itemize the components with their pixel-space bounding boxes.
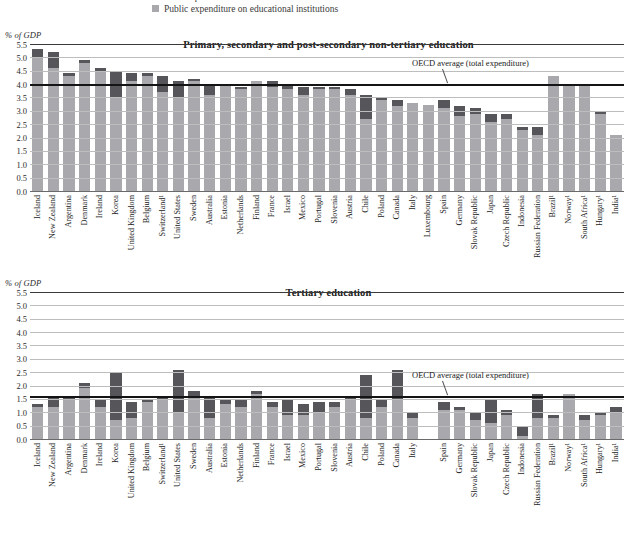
stacked-bar[interactable]	[110, 372, 121, 439]
stacked-bar[interactable]	[282, 399, 293, 439]
bar-segment-public	[282, 89, 293, 191]
bar-segment-public	[345, 95, 356, 191]
stacked-bar[interactable]	[438, 402, 449, 439]
x-axis-tick-label: Japan	[487, 195, 495, 214]
bar-slot	[249, 292, 265, 439]
y-tick-label: 5.5	[16, 40, 27, 50]
bar-segment-public	[485, 122, 496, 191]
stacked-bar[interactable]	[204, 396, 215, 439]
stacked-bar[interactable]	[95, 399, 106, 439]
stacked-bar[interactable]	[142, 399, 153, 439]
stacked-bar[interactable]	[110, 71, 121, 191]
stacked-bar[interactable]	[95, 68, 106, 191]
stacked-bar[interactable]	[298, 87, 309, 191]
bar-slot	[343, 44, 359, 191]
x-axis-tick-label: Sweden	[190, 195, 198, 221]
stacked-bar[interactable]	[501, 410, 512, 439]
bar-segment-public	[438, 410, 449, 439]
bar-segment-public	[220, 404, 231, 439]
stacked-bar[interactable]	[79, 60, 90, 191]
bar-segment-public	[79, 63, 90, 191]
x-label-slot: India¹	[608, 441, 624, 545]
bar-slot	[61, 44, 77, 191]
x-label-slot: Spain	[436, 441, 452, 545]
oecd-average-annotation: OECD average (total expenditure)	[412, 370, 529, 380]
stacked-bar[interactable]	[532, 394, 543, 439]
gridline-3.5: 3.5	[30, 345, 624, 346]
bar-slot	[608, 292, 624, 439]
stacked-bar[interactable]	[517, 127, 528, 191]
stacked-bar[interactable]	[548, 76, 559, 191]
x-axis-tick-label: Slovak Republic	[471, 195, 479, 249]
stacked-bar[interactable]	[548, 415, 559, 439]
stacked-bar[interactable]	[579, 415, 590, 439]
gridline-5.0: 5.0	[30, 305, 624, 306]
stacked-bar[interactable]	[157, 396, 168, 439]
stacked-bar[interactable]	[267, 402, 278, 439]
stacked-bar[interactable]	[376, 399, 387, 439]
stacked-bar[interactable]	[63, 396, 74, 439]
stacked-bar[interactable]	[392, 370, 403, 439]
bar-slot	[499, 292, 515, 439]
bar-segment-private	[438, 402, 449, 410]
stacked-bar[interactable]	[48, 52, 59, 191]
bar-slot	[218, 292, 234, 439]
stacked-bar[interactable]	[563, 394, 574, 439]
x-label-slot: Hungary¹	[593, 193, 609, 275]
stacked-bar[interactable]	[126, 402, 137, 439]
x-axis-tick-label: Argentina	[65, 195, 73, 228]
stacked-bar[interactable]	[313, 402, 324, 439]
x-label-slot: Ireland	[93, 441, 109, 545]
x-axis-tick-label: Germany	[456, 195, 464, 225]
x-label-slot: Poland	[374, 441, 390, 545]
stacked-bar[interactable]	[126, 73, 137, 191]
x-label-slot: Estonia	[218, 441, 234, 545]
bar-segment-public	[204, 418, 215, 439]
stacked-bar[interactable]	[142, 73, 153, 191]
stacked-bar[interactable]	[235, 87, 246, 191]
bar-segment-public	[548, 76, 559, 191]
legend-item-public: Public expenditure on educational instit…	[152, 3, 492, 14]
stacked-bar[interactable]	[313, 87, 324, 191]
stacked-bar[interactable]	[188, 79, 199, 191]
stacked-bar[interactable]	[360, 375, 371, 439]
x-label-slot: Germany	[452, 441, 468, 545]
stacked-bar[interactable]	[48, 396, 59, 439]
x-axis-tick-label: Hungary¹	[596, 443, 604, 474]
stacked-bar[interactable]	[329, 402, 340, 439]
stacked-bar[interactable]	[235, 399, 246, 439]
stacked-bar[interactable]	[157, 76, 168, 191]
stacked-bar[interactable]	[173, 370, 184, 439]
stacked-bar[interactable]	[79, 383, 90, 439]
stacked-bar[interactable]	[345, 89, 356, 191]
bar-segment-private	[438, 100, 449, 108]
bar-segment-public	[95, 71, 106, 191]
bar-slot	[77, 292, 93, 439]
gridline-3.5: 3.5	[30, 97, 624, 98]
stacked-bar[interactable]	[360, 95, 371, 191]
bar-slot	[374, 44, 390, 191]
stacked-bar[interactable]	[329, 87, 340, 191]
stacked-bar[interactable]	[610, 135, 621, 191]
stacked-bar[interactable]	[298, 404, 309, 439]
stacked-bar[interactable]	[485, 399, 496, 439]
stacked-bar[interactable]	[63, 73, 74, 191]
x-label-slot: Czech Republic	[499, 441, 515, 545]
x-label-slot: Iceland	[30, 441, 46, 545]
stacked-bar[interactable]	[517, 426, 528, 439]
gridline-2.0: 2.0	[30, 386, 624, 387]
gridline-4.5: 4.5	[30, 71, 624, 72]
stacked-bar[interactable]	[220, 399, 231, 439]
stacked-bar[interactable]	[532, 127, 543, 191]
gridline-5.5: 5.5	[30, 44, 624, 45]
y-tick-label: 3.0	[16, 106, 27, 116]
x-axis-tick-label: Ireland	[96, 195, 104, 218]
bar-segment-private	[48, 52, 59, 68]
stacked-bar[interactable]	[345, 396, 356, 439]
x-label-slot: Brazil¹	[546, 193, 562, 275]
x-label-slot: Finland	[249, 441, 265, 545]
bar-segment-public	[517, 130, 528, 191]
stacked-bar[interactable]	[32, 404, 43, 439]
bar-segment-public	[313, 89, 324, 191]
x-label-slot: United Kingdom	[124, 441, 140, 545]
